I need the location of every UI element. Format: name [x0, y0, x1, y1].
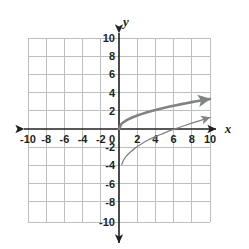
chart-page: y x -10 -8 -6 -4 -2 0 2 4 6 8 10 10 8 6 … — [0, 0, 249, 249]
y-tick--2: -2 — [105, 141, 115, 153]
x-tick--10: -10 — [20, 133, 36, 145]
x-tick--8: -8 — [41, 133, 51, 145]
x-tick-2: 2 — [134, 133, 140, 145]
y-tick-10: 10 — [103, 32, 115, 44]
chart-background — [0, 0, 249, 249]
x-tick--2: -2 — [96, 133, 106, 145]
x-tick-6: 6 — [171, 133, 177, 145]
y-tick--6: -6 — [105, 178, 115, 190]
y-tick-2: 2 — [109, 105, 115, 117]
x-tick--4: -4 — [78, 133, 89, 145]
x-tick--6: -6 — [60, 133, 70, 145]
y-tick--10: -10 — [99, 216, 115, 228]
x-axis-label: x — [224, 121, 232, 136]
x-tick-10: 10 — [204, 133, 216, 145]
y-axis-label: y — [121, 14, 129, 29]
y-tick--4: -4 — [105, 159, 116, 171]
y-tick-4: 4 — [109, 87, 116, 99]
y-tick-6: 6 — [109, 68, 115, 80]
y-tick--8: -8 — [105, 196, 115, 208]
x-tick-8: 8 — [189, 133, 195, 145]
coordinate-plane-graph: y x -10 -8 -6 -4 -2 0 2 4 6 8 10 10 8 6 … — [0, 0, 249, 249]
y-tick-8: 8 — [109, 50, 115, 62]
